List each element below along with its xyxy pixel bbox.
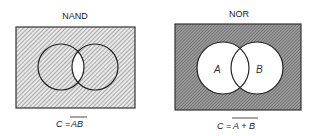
venn-diagrams: NAND C = AB NOR A B C = A + B [0,0,314,136]
nor-diagram: NOR A B C = A + B [175,9,301,131]
nor-title: NOR [229,9,250,19]
nand-formula-lhs: C = [56,119,70,129]
nor-formula-rhs: A + B [232,121,255,131]
nand-diagram: NAND C = AB [16,11,135,129]
nand-title: NAND [62,11,88,21]
nor-formula-lhs: C = [217,121,231,131]
nor-label-b: B [256,64,263,75]
nor-shaded-region [175,24,301,110]
nor-label-a: A [213,64,221,75]
nand-formula-rhs: AB [70,119,83,129]
